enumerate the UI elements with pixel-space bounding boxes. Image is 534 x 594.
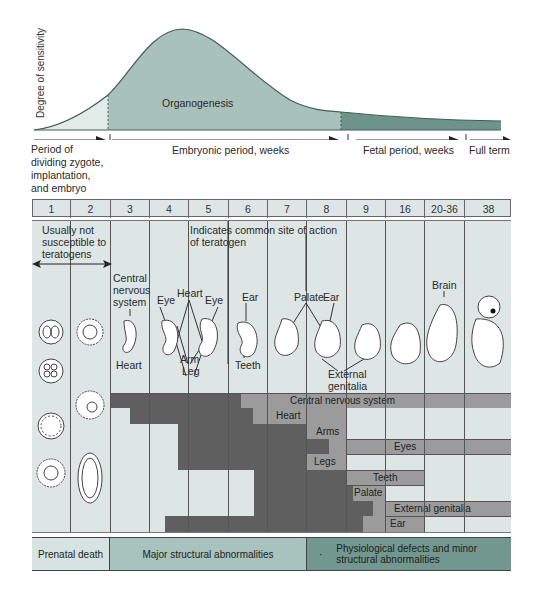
sensitivity-curve [0,0,534,140]
bar-grid-line [346,485,424,486]
fetal-period-label: Fetal period, weeks [363,144,454,156]
footer-minor-abnormalities: · Physiological defects and minor struct… [307,538,511,570]
bar-grid-line [346,454,511,455]
bullet: · [319,549,322,560]
minor-line: Physiological defects and minor [336,543,477,554]
bar-grid-line [346,470,424,471]
week-header-row: 1 2 3 4 5 6 7 8 9 16 20-36 38 [32,199,511,217]
bar-heart-light-ext [306,408,346,424]
week-cell: 38 [465,200,512,218]
bar-dark [110,393,241,408]
label-arms: Arms [316,424,339,439]
week-cell: 16 [386,200,425,218]
bar-grid-line [346,439,511,440]
label-eyes: Eyes [394,439,416,454]
minor-abnormalities-text: Physiological defects and minor structur… [336,543,477,565]
week-cell: 9 [347,200,386,218]
dividing-line: dividing zygote, [31,156,103,169]
week-cell: 3 [111,200,150,218]
outcome-footer: Prenatal death Major structural abnormal… [32,537,511,571]
embryo-illustrations [32,221,511,393]
organogenesis-label: Organogenesis [162,97,233,109]
major-abnormalities-label: Major structural abnormalities [142,549,273,560]
bar-dark-mid [281,501,346,516]
full-term-label: Full term [469,144,510,156]
bar-genitalia-dark [346,501,373,516]
bar-grid-line [110,393,511,394]
bar-dark [178,454,306,470]
week-cell: 20-36 [425,200,465,218]
bar-dark [165,516,346,532]
footer-prenatal-death: Prenatal death [32,538,110,570]
sensitivity-curve-chart: Degree of sensitivity Organogenesis Peri… [0,0,534,190]
bar-grid-line [385,501,511,502]
footer-major-abnormalities: Major structural abnormalities [110,538,307,570]
minor-line: structural abnormalities [336,554,477,565]
label-palate: Palate [354,485,382,500]
dividing-line: implantation, [31,169,103,182]
week-cell: 6 [229,200,268,218]
bar-eyes-dark-block [306,439,329,454]
early-cell-illustrations [32,380,112,530]
y-axis-label: Degree of sensitivity [35,28,46,118]
week-cell: 5 [189,200,229,218]
embryonic-period-label: Embryonic period, weeks [172,144,289,156]
week-cell: 1 [33,200,71,218]
label-heart: Heart [276,408,300,423]
dividing-line: and embryo [31,182,103,195]
bar-grid-line [385,516,511,517]
dividing-period-label: Period of dividing zygote, implantation,… [31,143,103,195]
bar-genitalia-light-a [373,501,385,516]
bar-dark [178,424,306,439]
week-cell: 2 [71,200,111,218]
bar-palate-dark [346,485,353,501]
week-cell: 7 [268,200,307,218]
week-cell: 4 [150,200,189,218]
label-external-genitalia: External genitalia [394,501,471,516]
dividing-line: Period of [31,143,103,156]
bar-ear-dark [346,516,363,532]
label-legs: Legs [314,454,336,469]
prenatal-death-label: Prenatal death [38,549,103,560]
label-ear: Ear [390,516,406,531]
week-cell: 8 [307,200,347,218]
